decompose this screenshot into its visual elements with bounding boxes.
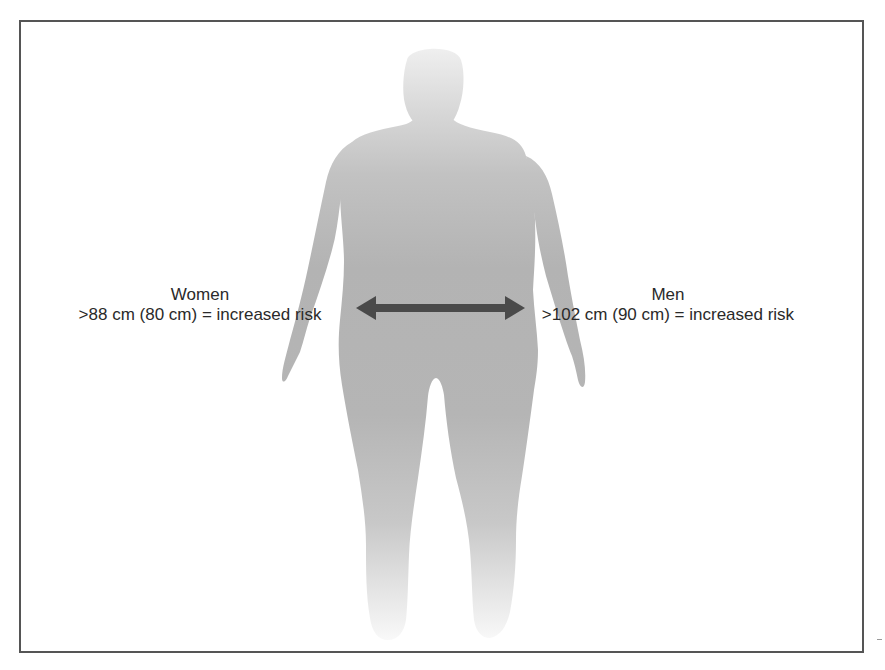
men-title: Men: [530, 285, 806, 305]
body-silhouette: [0, 0, 885, 670]
men-criteria: >102 cm (90 cm) = increased risk: [530, 305, 806, 325]
scan-artifact-mark: [877, 639, 882, 640]
silhouette-body: [339, 118, 538, 640]
women-waist-label: Women >88 cm (80 cm) = increased risk: [62, 285, 338, 325]
silhouette-head: [403, 49, 463, 122]
women-title: Women: [62, 285, 338, 305]
women-criteria: >88 cm (80 cm) = increased risk: [62, 305, 338, 325]
men-waist-label: Men >102 cm (90 cm) = increased risk: [530, 285, 806, 325]
